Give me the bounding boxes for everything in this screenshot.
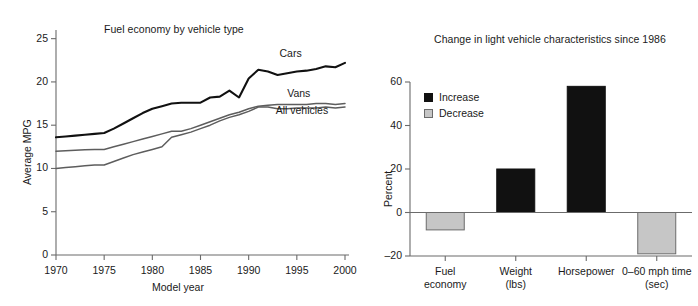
legend-swatch-decrease	[424, 109, 433, 118]
legend-swatch-increase	[424, 93, 433, 102]
bar-category-label-3-line-0: 0–60 mph time	[612, 265, 698, 278]
bar-chart-y-axis-label: Percent	[382, 171, 394, 207]
bar-category-label-1-line-1: (lbs)	[471, 278, 561, 291]
line-chart-plot-area	[0, 0, 362, 306]
bar-chart-panel: Change in light vehicle characteristics …	[362, 0, 698, 306]
bar-0	[426, 213, 464, 230]
bar-chart-y-tick-0: –20	[374, 249, 402, 261]
line-chart-panel: Fuel economy by vehicle type Average MPG…	[0, 0, 362, 306]
line-chart-y-tick-15: 15	[22, 118, 48, 130]
line-chart-y-tick-5: 5	[22, 205, 48, 217]
legend-label-decrease: Decrease	[439, 107, 484, 119]
bar-chart-title: Change in light vehicle characteristics …	[434, 33, 666, 45]
line-chart-x-axis-label: Model year	[152, 281, 204, 293]
line-chart-y-tick-10: 10	[22, 161, 48, 173]
bar-chart-y-tick-3: 40	[374, 119, 402, 131]
two-panel-chart-figure: Fuel economy by vehicle type Average MPG…	[0, 0, 698, 306]
line-series-label-cars: Cars	[279, 47, 301, 59]
bar-1	[497, 169, 535, 213]
line-chart-x-tick-2000: 2000	[323, 264, 367, 276]
line-chart-y-tick-0: 0	[22, 248, 48, 260]
line-chart-x-tick-1980: 1980	[130, 264, 174, 276]
bar-chart-y-tick-1: 0	[374, 206, 402, 218]
bar-chart-y-tick-2: 20	[374, 162, 402, 174]
bar-chart-y-tick-4: 60	[374, 75, 402, 87]
legend-label-increase: Increase	[439, 91, 479, 103]
line-chart-x-tick-1975: 1975	[82, 264, 126, 276]
bar-category-label-3: 0–60 mph time(sec)	[612, 265, 698, 291]
line-chart-x-tick-1990: 1990	[227, 264, 271, 276]
bar-chart-plot-area	[362, 0, 698, 306]
bar-2	[567, 86, 605, 212]
line-series-label-vans: Vans	[287, 87, 310, 99]
line-chart-x-tick-1995: 1995	[275, 264, 319, 276]
line-chart-x-tick-1970: 1970	[34, 264, 78, 276]
bar-category-label-3-line-1: (sec)	[612, 278, 698, 291]
line-chart-y-tick-20: 20	[22, 75, 48, 87]
bar-3	[638, 213, 676, 254]
line-chart-y-tick-25: 25	[22, 32, 48, 44]
line-chart-x-tick-1985: 1985	[179, 264, 223, 276]
line-series-cars	[56, 63, 345, 137]
line-series-label-all-vehicles: All vehicles	[276, 104, 329, 116]
line-chart-title: Fuel economy by vehicle type	[104, 23, 244, 35]
